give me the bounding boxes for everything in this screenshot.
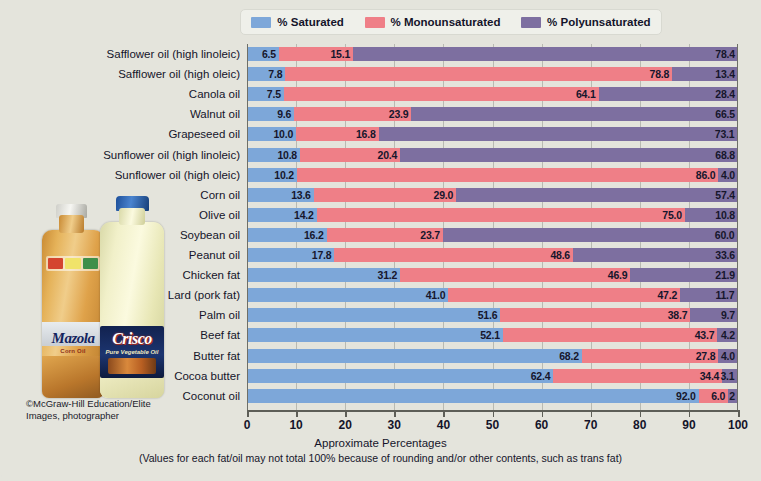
bar-row[interactable]: 31.246.921.9 xyxy=(247,268,738,282)
bar-row[interactable]: 92.06.02 xyxy=(247,389,738,403)
bar-segment-polyunsaturated: 33.6 xyxy=(573,248,738,262)
bar-value-label: 52.1 xyxy=(480,329,500,341)
x-axis-note: (Values for each fat/oil may not total 1… xyxy=(0,452,761,464)
bar-segment-saturated: 62.4 xyxy=(247,369,553,383)
photo-credit: ©McGraw-Hill Education/Elite Images, pho… xyxy=(26,398,186,421)
bar-row[interactable]: 62.434.43.1 xyxy=(247,369,738,383)
bar-row[interactable]: 14.275.010.8 xyxy=(247,208,738,222)
bar-segment-polyunsaturated: 13.4 xyxy=(672,67,738,81)
bar-value-label: 41.0 xyxy=(426,289,446,301)
bar-segment-saturated: 17.8 xyxy=(247,248,334,262)
x-tick xyxy=(738,410,740,417)
bar-value-label: 28.4 xyxy=(715,88,735,100)
bar-row[interactable]: 41.047.211.7 xyxy=(247,288,738,302)
bar-value-label: 4.0 xyxy=(721,350,735,362)
legend-label-polyunsaturated: % Polyunsaturated xyxy=(547,16,651,28)
bar-segment-monounsaturated: 23.7 xyxy=(327,228,443,242)
bar-value-label: 68.8 xyxy=(715,149,735,161)
bar-value-label: 14.2 xyxy=(294,209,314,221)
bar-segment-saturated: 10.0 xyxy=(247,127,296,141)
bar-row[interactable]: 7.564.128.4 xyxy=(247,87,738,101)
bar-segment-polyunsaturated: 10.8 xyxy=(685,208,738,222)
crisco-lower-body xyxy=(100,378,164,398)
bar-value-label: 10.0 xyxy=(273,128,293,140)
bar-segment-monounsaturated: 34.4 xyxy=(553,369,722,383)
mazola-sub-text: Corn Oil xyxy=(42,348,104,354)
legend-item-monounsaturated: % Monounsaturated xyxy=(365,16,501,28)
bar-segment-polyunsaturated: 66.5 xyxy=(411,107,738,121)
bar-value-label: 7.5 xyxy=(267,88,281,100)
x-tick-label: 70 xyxy=(584,418,597,432)
bar-segment-saturated: 10.2 xyxy=(247,168,297,182)
bar-row[interactable]: 10.016.873.1 xyxy=(247,127,738,141)
x-tick xyxy=(345,410,347,417)
bar-segment-polyunsaturated: 4.0 xyxy=(718,168,738,182)
bar-value-label: 10.8 xyxy=(277,149,297,161)
bar-row[interactable]: 6.515.178.4 xyxy=(247,47,738,61)
bar-segment-monounsaturated: 20.4 xyxy=(300,148,400,162)
bar-value-label: 34.4 xyxy=(700,370,720,382)
bar-segment-saturated: 7.8 xyxy=(247,67,285,81)
bar-value-label: 2 xyxy=(729,390,735,402)
mazola-top-label xyxy=(46,256,100,271)
crisco-neck xyxy=(119,208,145,225)
chart-legend: % Saturated % Monounsaturated % Polyunsa… xyxy=(240,9,662,35)
bar-value-label: 6.0 xyxy=(711,390,725,402)
bar-segment-monounsaturated: 29.0 xyxy=(314,188,456,202)
bar-segment-polyunsaturated: 3.1 xyxy=(722,369,737,383)
x-tick xyxy=(542,410,544,417)
bar-segment-monounsaturated: 47.2 xyxy=(448,288,680,302)
x-tick xyxy=(640,410,642,417)
bar-segment-polyunsaturated: 60.0 xyxy=(443,228,738,242)
bar-value-label: 9.6 xyxy=(277,108,291,120)
x-tick-label: 60 xyxy=(535,418,548,432)
bar-row[interactable]: 7.878.813.4 xyxy=(247,67,738,81)
bar-value-label: 3.1 xyxy=(720,370,734,382)
bar-segment-polyunsaturated: 11.7 xyxy=(680,288,737,302)
bar-row[interactable]: 51.638.79.7 xyxy=(247,308,738,322)
bar-segment-saturated: 68.2 xyxy=(247,349,582,363)
bar-value-label: 51.6 xyxy=(478,309,498,321)
bar-value-label: 73.1 xyxy=(715,128,735,140)
legend-swatch-monounsaturated xyxy=(365,17,385,28)
x-tick-label: 80 xyxy=(633,418,646,432)
x-tick-label: 90 xyxy=(682,418,695,432)
x-tick-label: 50 xyxy=(486,418,499,432)
bar-value-label: 78.4 xyxy=(715,48,735,60)
bar-row[interactable]: 68.227.84.0 xyxy=(247,349,738,363)
category-label: Grapeseed oil xyxy=(19,128,247,140)
bar-row[interactable]: 17.848.633.6 xyxy=(247,248,738,262)
bar-row[interactable]: 13.629.057.4 xyxy=(247,188,738,202)
bar-row[interactable]: 10.820.468.8 xyxy=(247,148,738,162)
bar-value-label: 66.5 xyxy=(715,108,735,120)
bar-segment-polyunsaturated: 78.4 xyxy=(353,47,738,61)
bar-value-label: 68.2 xyxy=(559,350,579,362)
bar-value-label: 21.9 xyxy=(715,269,735,281)
bar-value-label: 4.2 xyxy=(721,329,735,341)
bar-segment-polyunsaturated: 21.9 xyxy=(630,268,738,282)
bar-value-label: 33.6 xyxy=(715,249,735,261)
bar-row[interactable]: 16.223.760.0 xyxy=(247,228,738,242)
bar-row[interactable]: 10.286.04.0 xyxy=(247,168,738,182)
bar-segment-monounsaturated: 15.1 xyxy=(279,47,353,61)
x-tick xyxy=(493,410,495,417)
oil-bottles-photo: Mazola Corn Oil Crisco Pure Vegetable Oi… xyxy=(42,212,164,398)
bar-value-label: 31.2 xyxy=(378,269,398,281)
x-tick xyxy=(296,410,298,417)
bar-value-label: 20.4 xyxy=(378,149,398,161)
bar-segment-polyunsaturated: 73.1 xyxy=(379,127,738,141)
bar-row[interactable]: 9.623.966.5 xyxy=(247,107,738,121)
bar-value-label: 29.0 xyxy=(434,189,454,201)
bar-value-label: 86.0 xyxy=(696,169,716,181)
bar-segment-saturated: 14.2 xyxy=(247,208,317,222)
legend-swatch-saturated xyxy=(251,17,271,28)
x-tick xyxy=(443,410,445,417)
bar-value-label: 92.0 xyxy=(676,390,696,402)
bar-value-label: 62.4 xyxy=(531,370,551,382)
bar-value-label: 48.6 xyxy=(550,249,570,261)
mazola-brand-text: Mazola xyxy=(42,330,104,347)
category-label: Walnut oil xyxy=(19,108,247,120)
bar-row[interactable]: 52.143.74.2 xyxy=(247,328,738,342)
x-tick xyxy=(689,410,691,417)
x-tick xyxy=(394,410,396,417)
